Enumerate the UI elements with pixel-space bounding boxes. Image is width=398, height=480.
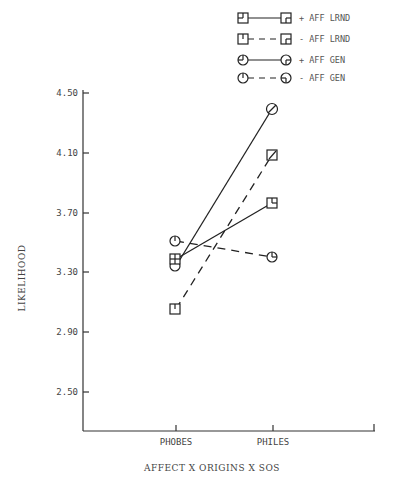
legend-label: + AFF LRND [299, 13, 350, 23]
axes [83, 90, 375, 431]
legend-label: + AFF GEN [299, 55, 345, 65]
legend-label: - AFF LRND [299, 34, 350, 44]
x-tick-label: PHILES [257, 437, 290, 447]
y-tick-label: 2.90 [56, 327, 78, 337]
chart-canvas: + AFF LRND - AFF LRND + AFF GEN - AFF GE… [0, 0, 398, 480]
legend-item-plus-aff-gen [238, 55, 291, 65]
line-plus-aff-gen [176, 109, 272, 266]
legend-item-minus-aff-lrnd [238, 34, 291, 44]
x-tick-label: PHOBES [160, 437, 193, 447]
legend-item-plus-aff-lrnd [238, 13, 291, 23]
y-tick-label: 4.10 [56, 148, 78, 158]
line-minus-aff-lrnd [176, 155, 272, 309]
y-tick-label: 4.50 [56, 88, 78, 98]
legend-label: - AFF GEN [299, 73, 345, 83]
line-minus-aff-gen [176, 241, 272, 257]
series-lines [176, 109, 272, 309]
legend [238, 13, 291, 83]
y-tick-label: 2.50 [56, 387, 78, 397]
y-tick-label: 3.70 [56, 208, 78, 218]
y-tick-label: 3.30 [56, 267, 78, 277]
x-axis-title: AFFECT X ORIGINS X SOS [143, 463, 280, 473]
legend-item-minus-aff-gen [238, 73, 291, 83]
y-axis-title: LIKELIHOOD [17, 244, 27, 311]
